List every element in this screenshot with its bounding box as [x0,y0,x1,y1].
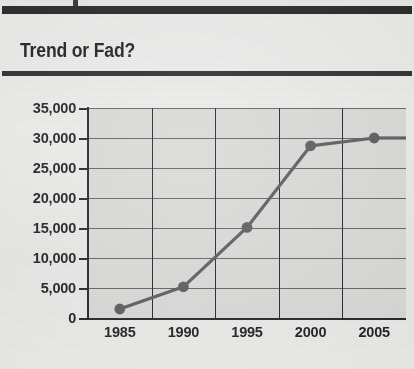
y-axis-tick [79,228,88,230]
title-band: Trend or Fad? [0,14,414,72]
y-axis-tick [79,288,88,290]
scan-artifact-speck [73,0,78,6]
data-point-marker [178,281,189,292]
page-title: Trend or Fad? [20,39,135,62]
data-point-marker [114,304,125,315]
y-axis-tick [79,138,88,140]
top-rule [2,6,412,14]
y-axis-tick [79,318,88,320]
y-axis-tick [79,258,88,260]
data-point-marker [305,140,316,151]
y-axis-tick [79,168,88,170]
data-point-marker [242,222,253,233]
y-axis-tick [79,198,88,200]
line-chart: 05,00010,00015,00020,00025,00030,00035,0… [0,76,414,369]
series-layer [0,76,414,369]
series-markers [114,133,379,315]
y-axis-tick [79,108,88,110]
data-point-marker [369,133,380,144]
